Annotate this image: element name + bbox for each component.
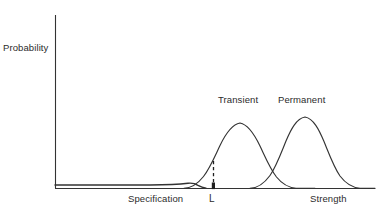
x-axis-label: Strength: [310, 194, 347, 204]
specification-curve: [55, 183, 206, 188]
specification-curve-label: Specification: [128, 194, 183, 204]
transient-curve-label: Transient: [218, 95, 258, 105]
y-axis-label: Probability: [3, 43, 48, 53]
permanent-curve-label: Permanent: [278, 95, 325, 105]
limit-label: L: [209, 194, 215, 204]
transient-curve: [184, 123, 315, 188]
plot-canvas: [0, 0, 384, 217]
permanent-curve: [250, 117, 375, 188]
limit-tick-marker: [212, 183, 215, 190]
probability-strength-distribution-diagram: Probability Transient Permanent Specific…: [0, 0, 384, 217]
